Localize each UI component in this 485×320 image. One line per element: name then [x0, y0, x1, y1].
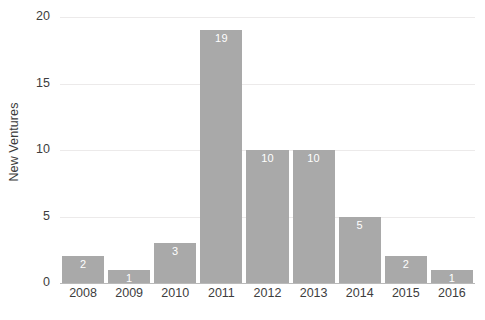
bar-value-label-2010: 3 — [154, 246, 196, 258]
y-tick-label-10: 10 — [6, 143, 50, 156]
bar-value-label-2014: 5 — [339, 220, 381, 232]
bar-2009[interactable]: 1 — [108, 270, 150, 283]
bar-chart-figure: New Ventures 05101520 213191010521 20082… — [0, 0, 485, 320]
y-axis-title-label: New Ventures — [7, 102, 21, 181]
bar-slot: 2 — [62, 17, 104, 283]
bar-slot: 10 — [246, 17, 288, 283]
x-tick-label-2014: 2014 — [337, 287, 383, 301]
bar-2013[interactable]: 10 — [293, 150, 335, 283]
x-tick-label-2013: 2013 — [291, 287, 337, 301]
bar-2015[interactable]: 2 — [385, 256, 427, 283]
y-tick-label-5: 5 — [6, 210, 50, 223]
x-tick-label-2009: 2009 — [106, 287, 152, 301]
bar-2010[interactable]: 3 — [154, 243, 196, 283]
y-tick-label-0: 0 — [6, 276, 50, 289]
y-tick-label-15: 15 — [6, 77, 50, 90]
bars-layer: 213191010521 — [60, 17, 475, 283]
bar-slot: 3 — [154, 17, 196, 283]
x-tick-label-2016: 2016 — [429, 287, 475, 301]
x-tick-label-2015: 2015 — [383, 287, 429, 301]
bar-value-label-2015: 2 — [385, 259, 427, 271]
x-axis-tick-labels: 200820092010201120122013201420152016 — [60, 287, 475, 309]
bar-value-label-2013: 10 — [293, 153, 335, 165]
plot-area: 213191010521 — [60, 17, 475, 283]
bar-2012[interactable]: 10 — [246, 150, 288, 283]
bar-2008[interactable]: 2 — [62, 256, 104, 283]
y-tick-label-20: 20 — [6, 10, 50, 23]
x-tick-label-2011: 2011 — [198, 287, 244, 301]
bar-value-label-2016: 1 — [431, 273, 473, 285]
bar-slot: 10 — [293, 17, 335, 283]
bar-slot: 19 — [200, 17, 242, 283]
bar-value-label-2011: 19 — [200, 33, 242, 45]
bar-value-label-2009: 1 — [108, 273, 150, 285]
bar-slot: 5 — [339, 17, 381, 283]
bar-2016[interactable]: 1 — [431, 270, 473, 283]
bar-value-label-2012: 10 — [246, 153, 288, 165]
x-tick-label-2008: 2008 — [60, 287, 106, 301]
bar-2014[interactable]: 5 — [339, 217, 381, 284]
x-tick-label-2012: 2012 — [244, 287, 290, 301]
bar-slot: 2 — [385, 17, 427, 283]
bar-slot: 1 — [108, 17, 150, 283]
y-axis-title: New Ventures — [0, 0, 28, 283]
bar-slot: 1 — [431, 17, 473, 283]
x-tick-label-2010: 2010 — [152, 287, 198, 301]
bar-2011[interactable]: 19 — [200, 30, 242, 283]
bar-value-label-2008: 2 — [62, 259, 104, 271]
